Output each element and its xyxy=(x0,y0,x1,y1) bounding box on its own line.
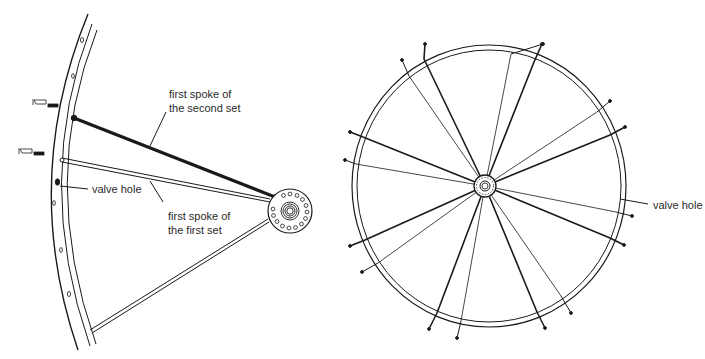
valve-hole xyxy=(55,179,59,185)
rim-hole xyxy=(53,201,56,206)
nipple-head-icon xyxy=(623,244,626,247)
spoke-nipple xyxy=(424,44,425,59)
valve-hole-leader xyxy=(60,186,88,189)
nipple-head-icon xyxy=(570,312,573,315)
hub xyxy=(474,175,496,197)
spoke-nipple xyxy=(429,313,437,329)
spoke-nipple xyxy=(610,238,624,245)
left-wheel-detail xyxy=(19,14,312,350)
nipple-head-icon xyxy=(456,337,459,340)
spoke-nipple-icon xyxy=(33,99,58,107)
nipple-head-icon xyxy=(544,327,547,330)
rim-hole xyxy=(60,248,63,253)
nipple-head-icon xyxy=(631,215,634,218)
spoke xyxy=(409,76,485,186)
spoke xyxy=(485,62,534,186)
hub-flange xyxy=(268,189,312,233)
spoke-hole xyxy=(60,158,64,162)
label-first-spoke-second-set-line2: the second set xyxy=(169,102,241,114)
spoke-nipple-icon xyxy=(19,148,44,155)
nipple-head-icon xyxy=(424,43,427,46)
spoke-nipple xyxy=(362,263,378,272)
spoke xyxy=(378,186,485,263)
spoke xyxy=(363,137,485,186)
diagram-canvas: first spoke of the second set valve hole… xyxy=(0,0,705,359)
label-valve-hole-right: valve hole xyxy=(653,199,703,211)
label-leader-second-set xyxy=(150,112,166,146)
spoke xyxy=(356,164,485,186)
spoke-nipple xyxy=(537,312,545,328)
nipple-head-icon xyxy=(541,43,544,46)
label-valve-hole-left: valve hole xyxy=(92,183,142,195)
spoke xyxy=(485,135,610,186)
spoke-nipple xyxy=(350,240,365,246)
right-wheel xyxy=(344,43,648,340)
rim-inner-edge-1 xyxy=(61,24,92,346)
nipple-head-icon xyxy=(349,131,352,134)
spoke-nipple xyxy=(610,127,625,135)
label-first-spoke-first-set-line1: first spoke of xyxy=(168,210,231,222)
label-first-spoke-second-set-line1: first spoke of xyxy=(169,88,232,100)
spoke xyxy=(424,59,485,186)
spoke xyxy=(485,112,597,186)
nipple-head-icon xyxy=(609,100,612,103)
nipple-head-icon xyxy=(428,328,431,331)
nipple-head-icon xyxy=(401,59,404,62)
rim-hole xyxy=(80,37,83,42)
nipple-head-icon xyxy=(624,126,627,129)
nipple-head-icon xyxy=(361,271,364,274)
spoke-lower-edge xyxy=(92,222,269,333)
nipple-head-icon xyxy=(349,245,352,248)
spoke xyxy=(485,54,511,186)
label-first-spoke-first-set-line2: the first set xyxy=(168,224,222,236)
valve-hole-leader-right xyxy=(620,199,648,204)
rim-hole xyxy=(72,74,75,79)
label-leader-first-set xyxy=(150,181,163,202)
spoke xyxy=(485,186,616,212)
spoke xyxy=(461,186,485,321)
nipple-head-icon xyxy=(344,159,347,162)
rim-hole xyxy=(67,291,70,296)
